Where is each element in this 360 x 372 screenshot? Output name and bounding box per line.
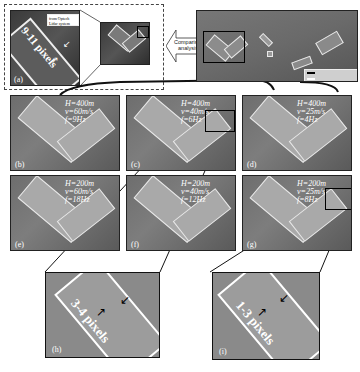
panel-b: H=400mv=60m/sf=9Hz (b): [10, 95, 120, 171]
legend-item: (illegible legend line 1): [317, 71, 345, 75]
param-f: f=8Hz: [297, 196, 326, 204]
param-f: f=9Hz: [65, 116, 94, 124]
panel-g: H=200mv=25m/sf=8Hz (g): [242, 175, 352, 251]
arrow-icon: ↙: [120, 293, 130, 308]
panel-label: (c): [131, 160, 140, 169]
panel-label: (f): [131, 240, 139, 249]
legend-box: (illegible legend line 1) (illegible leg…: [304, 69, 358, 82]
focus-box: [203, 31, 245, 63]
arrow-icon: ↗: [257, 305, 267, 320]
legend-item: (illegible legend line 2): [317, 77, 345, 81]
parameter-grid: H=400mv=60m/sf=9Hz (b) H=400mv=40m/sf=6H…: [10, 95, 352, 251]
param-f: f=18Hz: [65, 196, 94, 204]
panel-e: H=200mv=60m/sf=18Hz (e): [10, 175, 120, 251]
arrow-icon: ↗: [96, 305, 106, 320]
arrow-icon: ↙: [279, 291, 289, 306]
panel-d: H=400mv=25m/sf=4Hz (d): [242, 95, 352, 171]
zoom-panel-i: 1-3 pixels ↙ ↗ (i): [212, 272, 320, 360]
panel-c: H=400mv=40m/sf=6Hz (c): [126, 95, 236, 171]
zoom-panel-h: 3-4 pixels ↙ ↗ (h): [45, 272, 160, 358]
zoom-region-box: [325, 188, 352, 210]
zoom-region-box: [205, 110, 235, 132]
panel-label: (g): [247, 240, 256, 249]
param-f: f=12Hz: [181, 196, 210, 204]
legend-swatch-white: [307, 78, 315, 80]
panel-label: (d): [247, 160, 256, 169]
panel-label: (e): [15, 240, 24, 249]
panel-f: H=200mv=40m/sf=12Hz (f): [126, 175, 236, 251]
legend-swatch-black: [307, 72, 315, 74]
panel-label: (i): [219, 347, 227, 356]
panel-label: (h): [52, 345, 61, 354]
param-f: f=4Hz: [297, 116, 326, 124]
panel-label: (b): [15, 160, 24, 169]
aerial-overview-image: (illegible legend line 1) (illegible leg…: [196, 10, 358, 82]
